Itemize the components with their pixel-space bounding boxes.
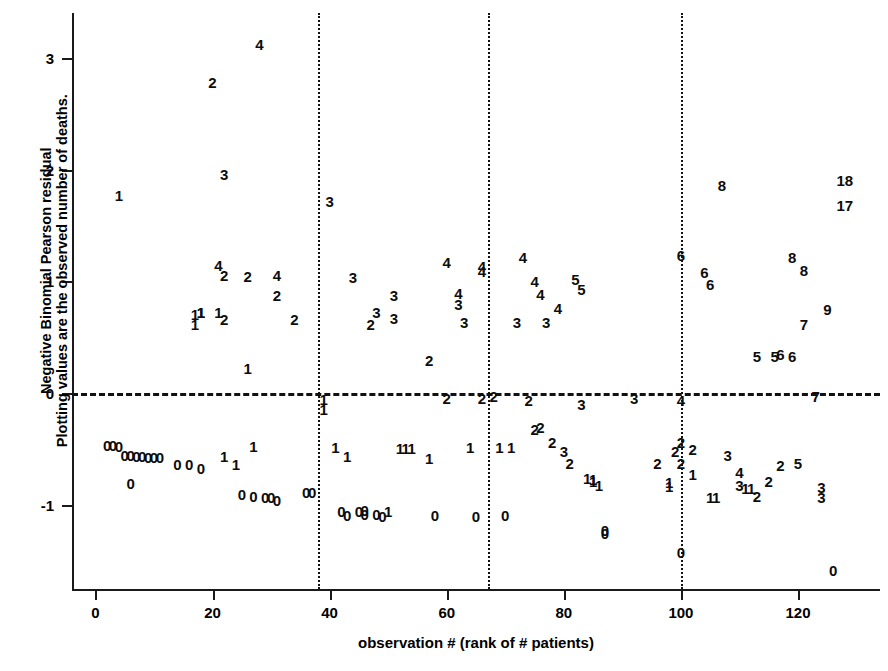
data-point-label: 1 bbox=[331, 439, 339, 454]
data-point-label: 4 bbox=[478, 258, 486, 273]
data-point-label: 4 bbox=[519, 249, 527, 264]
data-point-label: 2 bbox=[220, 267, 228, 282]
x-tick-label: 80 bbox=[555, 604, 572, 621]
data-point-label: 4 bbox=[554, 301, 562, 316]
data-point-label: 2 bbox=[765, 473, 773, 488]
data-point-label: 3 bbox=[390, 287, 398, 302]
data-point-label: 2 bbox=[290, 312, 298, 327]
data-point-label: 1 bbox=[249, 438, 257, 453]
group-divider-line bbox=[318, 13, 320, 589]
group-divider-line bbox=[681, 13, 683, 589]
data-point-label: 0 bbox=[472, 509, 480, 524]
data-point-label: 8 bbox=[788, 249, 796, 264]
data-point-label: 1 bbox=[407, 441, 415, 456]
data-point-label: 1 bbox=[232, 456, 240, 471]
data-point-label: 2 bbox=[677, 435, 685, 450]
data-point-label: 1 bbox=[665, 479, 673, 494]
data-point-label: 0 bbox=[601, 526, 609, 541]
data-point-label: 3 bbox=[349, 269, 357, 284]
x-tick-mark bbox=[95, 590, 97, 600]
data-point-label: 1 bbox=[384, 503, 392, 518]
x-tick-label: 20 bbox=[204, 604, 221, 621]
data-point-label: 2 bbox=[243, 268, 251, 283]
data-point-label: 6 bbox=[776, 347, 784, 362]
x-tick-mark bbox=[798, 590, 800, 600]
data-point-label: 2 bbox=[273, 287, 281, 302]
data-point-label: 2 bbox=[425, 352, 433, 367]
data-point-label: 0 bbox=[308, 484, 316, 499]
data-point-label: 1 bbox=[343, 448, 351, 463]
data-point-label: 4 bbox=[677, 392, 685, 407]
data-point-label: 0 bbox=[173, 456, 181, 471]
data-point-label: 5 bbox=[753, 349, 761, 364]
data-point-label: 1 bbox=[115, 188, 123, 203]
data-point-label: 2 bbox=[525, 392, 533, 407]
y-axis-title-line-1: Negative Binomial Pearson residual bbox=[39, 0, 55, 551]
data-point-label: 8 bbox=[718, 178, 726, 193]
data-point-label: 3 bbox=[513, 314, 521, 329]
data-point-label: 3 bbox=[542, 314, 550, 329]
data-point-label: 5 bbox=[577, 282, 585, 297]
data-point-label: 7 bbox=[800, 316, 808, 331]
data-point-label: 1 bbox=[320, 401, 328, 416]
data-point-label: 2 bbox=[478, 390, 486, 405]
x-axis-spine bbox=[72, 589, 880, 591]
data-point-label: 0 bbox=[361, 502, 369, 517]
data-point-label: 1 bbox=[712, 490, 720, 505]
x-tick-label: 0 bbox=[91, 604, 99, 621]
data-point-label: 3 bbox=[817, 490, 825, 505]
data-point-label: 4 bbox=[454, 285, 462, 300]
data-point-label: 3 bbox=[724, 447, 732, 462]
data-point-label: 2 bbox=[753, 489, 761, 504]
data-point-label: 3 bbox=[325, 193, 333, 208]
x-tick-label: 40 bbox=[321, 604, 338, 621]
data-point-label: 3 bbox=[460, 314, 468, 329]
x-tick-label: 60 bbox=[438, 604, 455, 621]
data-point-label: 6 bbox=[706, 276, 714, 291]
data-point-label: 2 bbox=[677, 455, 685, 470]
x-tick-mark bbox=[564, 590, 566, 600]
x-tick-label: 100 bbox=[668, 604, 693, 621]
data-point-label: 1 bbox=[425, 451, 433, 466]
data-point-label: 3 bbox=[630, 390, 638, 405]
data-point-label: 0 bbox=[156, 450, 164, 465]
x-tick-mark bbox=[681, 590, 683, 600]
data-point-label: 0 bbox=[501, 508, 509, 523]
data-point-label: 6 bbox=[677, 247, 685, 262]
data-point-label: 2 bbox=[688, 442, 696, 457]
data-point-label: 0 bbox=[126, 475, 134, 490]
data-point-label: 1 bbox=[243, 360, 251, 375]
data-point-label: 3 bbox=[372, 304, 380, 319]
data-point-label: 2 bbox=[443, 390, 451, 405]
data-point-label: 3 bbox=[577, 397, 585, 412]
data-point-label: 8 bbox=[800, 263, 808, 278]
data-point-label: 2 bbox=[489, 388, 497, 403]
data-point-label: 4 bbox=[536, 286, 544, 301]
data-point-label: 2 bbox=[208, 75, 216, 90]
data-point-label: 1 bbox=[197, 304, 205, 319]
data-point-label: 2 bbox=[536, 419, 544, 434]
data-point-label: 18 bbox=[837, 172, 854, 187]
data-point-label: 7 bbox=[811, 388, 819, 403]
data-point-label: 0 bbox=[343, 508, 351, 523]
scatter-plot-figure: -10123 020406080100120 00000000000100111… bbox=[0, 0, 888, 671]
data-point-label: 0 bbox=[273, 492, 281, 507]
data-point-label: 0 bbox=[677, 545, 685, 560]
x-tick-label: 120 bbox=[786, 604, 811, 621]
data-point-label: 0 bbox=[829, 562, 837, 577]
y-axis-title-line-2: Plotting values are the observed number … bbox=[55, 0, 71, 551]
data-point-label: 2 bbox=[566, 455, 574, 470]
x-axis-title: observation # (rank of # patients) bbox=[72, 634, 880, 651]
data-point-label: 2 bbox=[548, 435, 556, 450]
data-point-label: 4 bbox=[443, 255, 451, 270]
data-point-label: 2 bbox=[220, 312, 228, 327]
data-point-label: 5 bbox=[794, 455, 802, 470]
y-axis-title: Negative Binomial Pearson residual Plott… bbox=[39, 0, 70, 551]
data-point-label: 3 bbox=[390, 311, 398, 326]
data-point-label: 17 bbox=[837, 198, 854, 213]
data-point-label: 1 bbox=[466, 439, 474, 454]
data-point-label: 0 bbox=[249, 489, 257, 504]
data-point-label: 2 bbox=[776, 457, 784, 472]
data-point-label: 0 bbox=[431, 508, 439, 523]
data-point-label: 0 bbox=[238, 486, 246, 501]
